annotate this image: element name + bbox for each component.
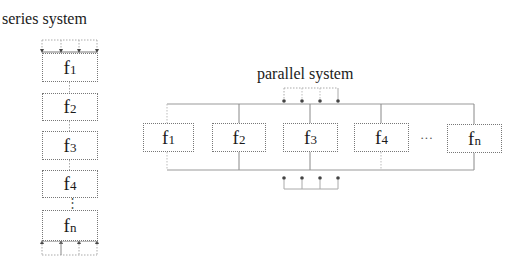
series-block-fn: fn [42,210,98,241]
series-block-f1: f1 [42,53,98,82]
series-block-f4: f4 [42,170,98,198]
parallel-block-f1: f1 [143,123,194,152]
series-block-f2: f2 [42,93,98,121]
series-ellipsis: ⋮ [66,196,79,210]
parallel-block-f2: f2 [212,123,266,152]
series-block-f3: f3 [42,131,98,160]
series-system-title: series system [2,10,87,28]
parallel-block-f4: f4 [354,123,409,152]
parallel-system-title: parallel system [257,65,353,83]
parallel-ellipsis: ··· [420,130,433,146]
parallel-block-f3: f3 [283,123,338,152]
parallel-block-fn: fn [447,124,502,153]
